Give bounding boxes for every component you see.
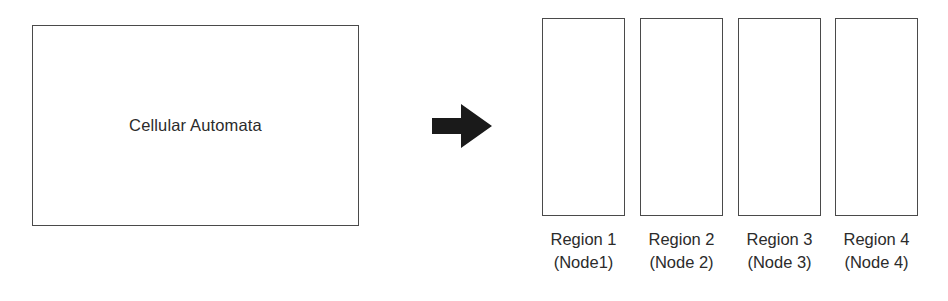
- region-name-2: Region 2: [640, 228, 723, 251]
- region-node-3: (Node 3): [738, 251, 821, 274]
- region-caption-3: Region 3 (Node 3): [738, 228, 821, 275]
- region-box-4: [835, 18, 918, 216]
- region-caption-2: Region 2 (Node 2): [640, 228, 723, 275]
- region-box-3: [738, 18, 821, 216]
- region-column-4: Region 4 (Node 4): [835, 18, 918, 275]
- region-column-3: Region 3 (Node 3): [738, 18, 821, 275]
- region-box-1: [542, 18, 625, 216]
- region-column-2: Region 2 (Node 2): [640, 18, 723, 275]
- region-name-4: Region 4: [835, 228, 918, 251]
- region-name-3: Region 3: [738, 228, 821, 251]
- region-caption-1: Region 1 (Node1): [542, 228, 625, 275]
- region-node-1: (Node1): [542, 251, 625, 274]
- cellular-automata-box: Cellular Automata: [32, 25, 359, 226]
- cellular-automata-label: Cellular Automata: [129, 117, 262, 134]
- region-box-2: [640, 18, 723, 216]
- region-name-1: Region 1: [542, 228, 625, 251]
- region-group: Region 1 (Node1) Region 2 (Node 2) Regio…: [542, 18, 918, 278]
- right-arrow-icon: [430, 100, 494, 152]
- region-node-2: (Node 2): [640, 251, 723, 274]
- diagram-canvas: Cellular Automata Region 1 (Node1) Regio…: [0, 0, 948, 301]
- region-caption-4: Region 4 (Node 4): [835, 228, 918, 275]
- region-node-4: (Node 4): [835, 251, 918, 274]
- right-arrow-shape: [432, 104, 492, 148]
- region-column-1: Region 1 (Node1): [542, 18, 625, 275]
